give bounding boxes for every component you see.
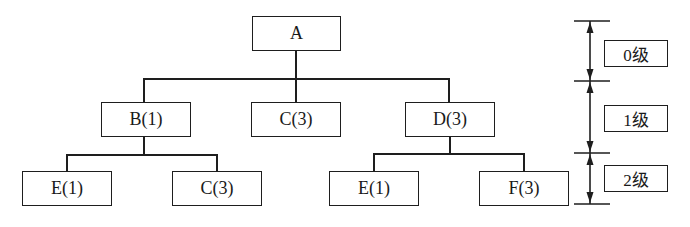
level-label-1: 1级	[604, 105, 668, 132]
level-ruler	[0, 0, 690, 227]
level-label-0: 0级	[604, 40, 668, 67]
level-label-2: 2级	[604, 165, 668, 192]
